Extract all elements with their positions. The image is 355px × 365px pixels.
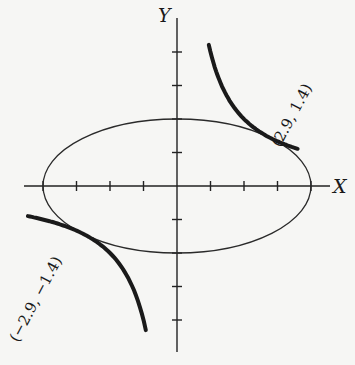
x-axis-label: X	[331, 175, 348, 197]
axes	[24, 18, 330, 352]
point-label-lower: (−2.9, −1.4)	[6, 253, 66, 345]
y-axis-label: Y	[158, 4, 173, 26]
figure: Y X (2.9, 1.4) (−2.9, −1.4)	[0, 0, 355, 365]
point-label-upper: (2.9, 1.4)	[268, 81, 316, 150]
